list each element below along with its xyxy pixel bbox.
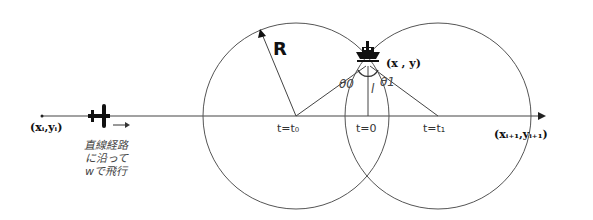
aircraft-icon <box>88 104 110 128</box>
theta1-label: θ1 <box>380 75 395 89</box>
direction-arrow-icon <box>125 122 130 128</box>
aircraft-note: 直線経路 に沿って wで飛行 <box>76 139 136 178</box>
time-label-t1: t=t₁ <box>423 122 445 135</box>
ship-position-label: (x , y) <box>386 57 421 70</box>
start-point-dot <box>41 115 44 118</box>
start-point-label: (xᵢ,yᵢ) <box>30 121 62 134</box>
end-point-label: (xᵢ₊₁,yᵢ₊₁) <box>494 128 548 141</box>
aircraft-note-line-3: wで飛行 <box>76 165 136 178</box>
radius-label: R <box>273 38 287 59</box>
aircraft-note-line-2: に沿って <box>76 152 136 165</box>
distance-label: l <box>371 82 374 96</box>
line-ship-to-t0 <box>296 66 366 116</box>
diagram-canvas <box>0 0 593 220</box>
ship-icon <box>356 41 380 62</box>
theta0-label: θ0 <box>339 77 354 91</box>
time-label-t-zero: t=0 <box>356 122 377 135</box>
flight-path-arrowhead-icon <box>538 112 546 120</box>
line-ship-to-t1 <box>370 66 438 116</box>
time-label-t0: t=t₀ <box>277 122 299 135</box>
aircraft-note-line-1: 直線経路 <box>76 139 136 152</box>
